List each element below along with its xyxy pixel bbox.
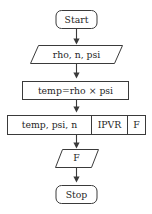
- node-stop[interactable]: Stop: [56, 186, 97, 204]
- node-output-label: F: [73, 152, 80, 163]
- flowchart-canvas: Start rho, n, psi temp=rho × psi temp, p…: [0, 0, 152, 214]
- node-subroutine-call[interactable]: temp, psi, n IPVR F: [8, 116, 146, 135]
- node-process-label: temp=rho × psi: [38, 85, 113, 96]
- arrowhead-icon: [73, 142, 79, 148]
- node-input[interactable]: rho, n, psi: [31, 46, 123, 64]
- call-cell-args-label: temp, psi, n: [22, 119, 78, 130]
- node-stop-label: Stop: [66, 189, 88, 200]
- arrowhead-icon: [73, 38, 79, 44]
- node-process[interactable]: temp=rho × psi: [23, 82, 129, 100]
- connector-call-to-output: [73, 135, 79, 149]
- arrowhead-icon: [73, 72, 79, 78]
- call-cell-return-label: F: [133, 119, 140, 130]
- flowchart-svg: Start rho, n, psi temp=rho × psi temp, p…: [0, 0, 152, 214]
- connector-input-to-process: [73, 64, 79, 79]
- node-start[interactable]: Start: [56, 11, 97, 29]
- arrowhead-icon: [73, 176, 79, 182]
- call-cell-routine-label: IPVR: [98, 119, 123, 130]
- connector-process-to-call: [73, 100, 79, 113]
- node-output[interactable]: F: [56, 150, 99, 168]
- node-input-label: rho, n, psi: [53, 49, 101, 60]
- connector-start-to-input: [73, 28, 79, 45]
- arrowhead-icon: [73, 106, 79, 112]
- connector-output-to-stop: [73, 168, 79, 183]
- node-start-label: Start: [65, 14, 89, 25]
